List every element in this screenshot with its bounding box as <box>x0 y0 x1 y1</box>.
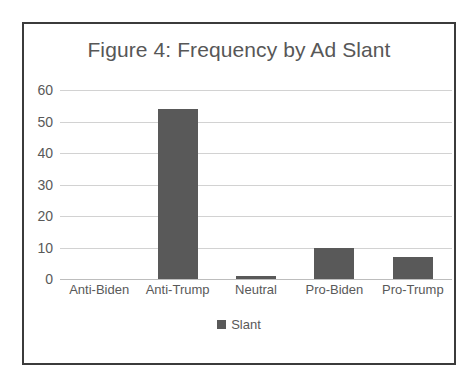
y-axis-tick-label: 20 <box>37 208 53 224</box>
bar-slot <box>60 90 138 279</box>
bar-neutral <box>236 276 276 279</box>
x-axis-tick-label: Anti-Biden <box>69 282 129 297</box>
bar-pro-trump <box>393 257 433 279</box>
bar-slot <box>374 90 452 279</box>
figure-frame: Figure 4: Frequency by Ad Slant 01020304… <box>22 22 456 365</box>
y-axis-tick-label: 0 <box>45 271 53 287</box>
bar-series-slant <box>60 90 452 279</box>
bar-slot <box>138 90 216 279</box>
gridline <box>60 279 452 280</box>
legend-label-slant: Slant <box>231 317 261 332</box>
y-axis-tick-label: 40 <box>37 145 53 161</box>
x-axis-tick-label: Anti-Trump <box>146 282 210 297</box>
chart-legend: Slant <box>24 317 454 332</box>
x-axis-tick-label: Pro-Biden <box>305 282 363 297</box>
x-axis-tick-label: Pro-Trump <box>382 282 444 297</box>
plot-area: 0102030405060 Anti-BidenAnti-TrumpNeutra… <box>60 90 452 279</box>
bar-anti-trump <box>158 109 198 279</box>
bar-slot <box>217 90 295 279</box>
y-axis-tick-label: 60 <box>37 82 53 98</box>
y-axis-tick-label: 50 <box>37 114 53 130</box>
bar-pro-biden <box>314 248 354 280</box>
legend-swatch-icon <box>217 320 226 329</box>
chart-title: Figure 4: Frequency by Ad Slant <box>24 38 454 62</box>
bar-slot <box>295 90 373 279</box>
x-axis-tick-label: Neutral <box>235 282 277 297</box>
y-axis-tick-label: 30 <box>37 177 53 193</box>
y-axis-tick-label: 10 <box>37 240 53 256</box>
